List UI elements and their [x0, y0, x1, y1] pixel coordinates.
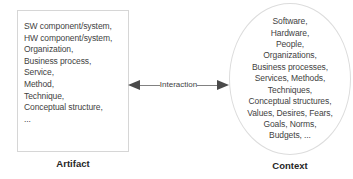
context-item: Organizations, [247, 50, 332, 61]
interaction-arrow: Interaction [128, 80, 229, 90]
artifact-item: HW component/system, [24, 33, 125, 45]
context-item-list: Software, Hardware, People, Organization… [247, 16, 332, 141]
context-caption: Context [229, 160, 351, 171]
arrow-line-right [197, 85, 217, 86]
artifact-item-list: SW component/system, HW component/system… [18, 11, 128, 125]
artifact-item: ... [24, 114, 125, 126]
artifact-item: Method, [24, 79, 125, 91]
artifact-item: Service, [24, 67, 125, 79]
context-item: Values, Desires, Fears, [247, 108, 332, 119]
context-shape: Software, Hardware, People, Organization… [229, 3, 351, 155]
arrow-line-left [140, 85, 160, 86]
arrowhead-left-icon [128, 80, 140, 90]
arrowhead-right-icon [217, 80, 229, 90]
artifact-item: Technique, [24, 91, 125, 103]
context-item: Goals, Norms, [247, 119, 332, 130]
context-item: Conceptual structures, [247, 96, 332, 107]
artifact-caption: Artifact [17, 158, 129, 169]
artifact-item: SW component/system, [24, 21, 125, 33]
artifact-shape: SW component/system, HW component/system… [17, 10, 129, 152]
context-item: Services, Methods, [247, 73, 332, 84]
artifact-context-diagram: SW component/system, HW component/system… [0, 0, 353, 179]
artifact-item: Organization, [24, 44, 125, 56]
context-item: Business processes, [247, 62, 332, 73]
context-item: Software, [247, 16, 332, 27]
artifact-item: Conceptual structure, [24, 102, 125, 114]
context-item: Budgets, ... [247, 130, 332, 141]
context-item: Hardware, [247, 28, 332, 39]
interaction-label: Interaction [160, 80, 197, 90]
artifact-item: Business process, [24, 56, 125, 68]
context-item: People, [247, 39, 332, 50]
context-item: Techniques, [247, 85, 332, 96]
